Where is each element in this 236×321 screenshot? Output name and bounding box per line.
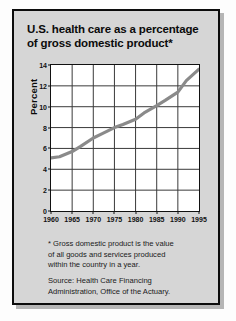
x-tick-mark — [72, 211, 73, 214]
x-tick-label: 1980 — [128, 216, 144, 223]
x-tick-mark — [199, 211, 200, 214]
x-tick-mark — [177, 211, 178, 214]
y-tick-mark — [48, 190, 51, 191]
y-tick-mark — [48, 127, 51, 128]
y-tick-label: 8 — [43, 124, 47, 131]
chart-canvas — [51, 65, 199, 211]
x-tick-label: 1960 — [43, 216, 59, 223]
x-tick-label: 1965 — [64, 216, 80, 223]
y-tick-mark — [48, 85, 51, 86]
y-tick-label: 14 — [39, 62, 47, 69]
y-tick-mark — [48, 106, 51, 107]
x-tick-mark — [93, 211, 94, 214]
figure-root: U.S. health care as a percentage of gros… — [0, 0, 236, 321]
chart-panel: U.S. health care as a percentage of gros… — [12, 9, 220, 305]
y-tick-mark — [48, 65, 51, 66]
x-tick-mark — [51, 211, 52, 214]
grid-horizontal-lines — [51, 86, 199, 190]
x-tick-label: 1985 — [149, 216, 165, 223]
source-line-2: Administration, Office of the Actuary. — [48, 287, 213, 298]
data-series-line — [51, 69, 199, 158]
source-note: Source: Health Care Financing Administra… — [48, 276, 213, 297]
x-tick-mark — [156, 211, 157, 214]
source-line-1: Source: Health Care Financing — [48, 276, 213, 287]
x-tick-label: 1990 — [170, 216, 186, 223]
y-tick-mark — [48, 169, 51, 170]
y-tick-label: 6 — [43, 145, 47, 152]
y-tick-label: 2 — [43, 187, 47, 194]
x-tick-label: 1995 — [191, 216, 207, 223]
plot-area: 02468101214 1960196519701975198019851990… — [50, 64, 200, 212]
y-tick-label: 10 — [39, 103, 47, 110]
y-tick-label: 4 — [43, 166, 47, 173]
panel-inner: U.S. health care as a percentage of gros… — [14, 11, 218, 303]
footnote-line-3: within the country in a year. — [48, 260, 208, 271]
x-tick-label: 1975 — [107, 216, 123, 223]
footnote: * Gross domestic product is the value of… — [48, 239, 208, 271]
y-tick-label: 12 — [39, 82, 47, 89]
y-tick-mark — [48, 148, 51, 149]
y-tick-label: 0 — [43, 208, 47, 215]
grid-vertical-lines — [72, 65, 178, 211]
x-tick-label: 1970 — [85, 216, 101, 223]
footnote-line-1: * Gross domestic product is the value — [48, 239, 208, 250]
x-tick-mark — [135, 211, 136, 214]
x-tick-mark — [114, 211, 115, 214]
footnote-line-2: of all goods and services produced — [48, 250, 208, 261]
